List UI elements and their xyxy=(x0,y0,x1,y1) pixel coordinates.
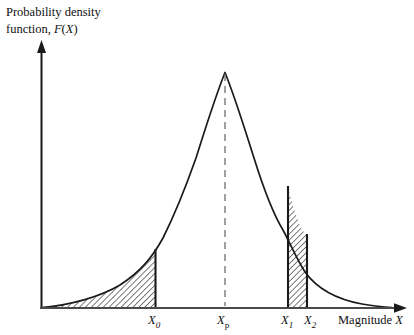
tick-label-x0: X0 xyxy=(148,313,160,330)
tick-label-xp-sub: p xyxy=(225,320,230,330)
density-curve xyxy=(42,73,392,308)
y-axis-label-line1: Probability density xyxy=(6,5,101,19)
x-axis-title-symbol: X xyxy=(395,313,403,327)
tick-label-x0-base: X xyxy=(148,313,156,327)
y-axis-label-paren-close: ) xyxy=(73,22,77,36)
y-axis-label: Probability densityfunction, F(X) xyxy=(6,4,101,38)
tick-label-x2-base: X xyxy=(304,313,312,327)
tick-label-xp: Xp xyxy=(217,313,229,330)
tick-label-x1-sub: 1 xyxy=(289,320,294,330)
tick-label-xp-base: X xyxy=(217,313,225,327)
x-axis-title: Magnitude X xyxy=(338,313,403,328)
tick-label-x0-sub: 0 xyxy=(156,320,161,330)
y-axis-label-line2-prefix: function, xyxy=(6,22,54,36)
tick-label-x1-base: X xyxy=(281,313,289,327)
y-axis-label-symbol-f: F xyxy=(54,22,62,36)
y-axis xyxy=(37,40,46,308)
left-tail-shaded-region xyxy=(40,180,160,310)
tick-label-x2-sub: 2 xyxy=(312,320,317,330)
tick-label-x2: X2 xyxy=(304,313,316,330)
probability-density-figure xyxy=(0,0,414,335)
x-axis-title-text: Magnitude xyxy=(338,313,395,327)
tick-label-x1: X1 xyxy=(281,313,293,330)
